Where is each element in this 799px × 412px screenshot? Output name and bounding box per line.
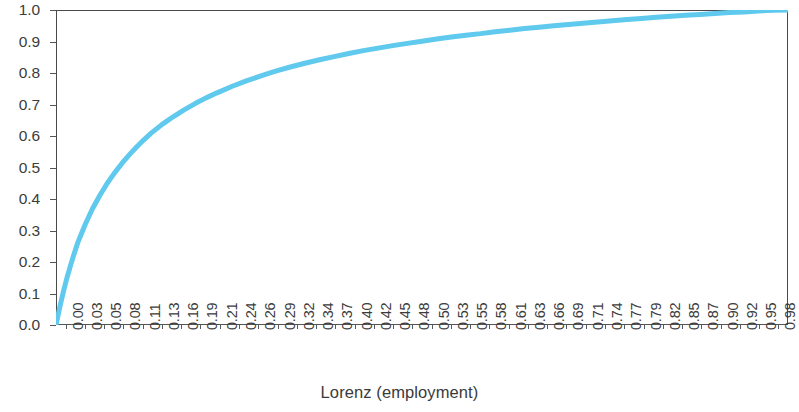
x-axis-tick-label: 0.40 [360, 303, 375, 330]
x-axis-tick-mark [586, 325, 587, 329]
x-axis-tick-mark [200, 325, 201, 329]
x-axis-tick-label: 0.92 [745, 303, 760, 330]
x-axis-tick-mark [701, 325, 702, 329]
x-axis-tick-label: 0.34 [321, 303, 336, 330]
x-axis-tick-label: 0.32 [302, 303, 317, 330]
x-axis-tick-mark [778, 325, 779, 329]
x-axis-tick-mark [143, 325, 144, 329]
x-axis-tick-label: 0.26 [263, 303, 278, 330]
x-axis-tick-label: 0.58 [494, 303, 509, 330]
x-axis-tick-label: 0.79 [649, 303, 664, 330]
x-axis-tick-label: 0.13 [167, 303, 182, 330]
x-axis-tick-label: 0.63 [533, 303, 548, 330]
x-axis-tick-label: 0.00 [71, 303, 86, 330]
x-axis-tick-label: 0.42 [379, 303, 394, 330]
x-axis-tick-label: 0.87 [706, 303, 721, 330]
x-axis-tick-mark [239, 325, 240, 329]
x-axis-tick-mark [297, 325, 298, 329]
x-axis-title: Lorenz (employment) [0, 383, 799, 402]
x-axis-tick-mark [644, 325, 645, 329]
x-axis-tick-mark [162, 325, 163, 329]
x-axis-tick-label: 0.05 [109, 303, 124, 330]
x-axis-tick-label: 0.11 [148, 304, 163, 330]
x-axis-tick-label: 0.29 [283, 303, 298, 330]
x-axis-tick-label: 0.53 [456, 303, 471, 330]
x-axis-tick-mark [278, 325, 279, 329]
x-axis-tick-mark [470, 325, 471, 329]
x-axis-tick-label: 0.16 [186, 303, 201, 330]
x-axis-tick-mark [258, 325, 259, 329]
x-axis-tick-label: 0.98 [783, 303, 798, 330]
x-axis-tick-label: 0.95 [764, 303, 779, 330]
x-axis-tick-mark [759, 325, 760, 329]
x-axis-tick-mark [85, 325, 86, 329]
x-axis-tick-mark [605, 325, 606, 329]
x-axis-tick-mark [432, 325, 433, 329]
x-axis-tick-label: 0.48 [417, 303, 432, 330]
x-axis-tick-mark [412, 325, 413, 329]
x-axis-tick-label: 0.08 [128, 303, 143, 330]
x-axis-tick-mark [316, 325, 317, 329]
x-axis-tick-mark [740, 325, 741, 329]
x-axis-tick-label: 0.61 [514, 303, 529, 330]
x-axis-tick-mark [123, 325, 124, 329]
x-axis-tick-label: 0.55 [475, 303, 490, 330]
x-axis-tick-mark [66, 325, 67, 329]
x-axis-tick-mark [682, 325, 683, 329]
x-axis-tick-mark [181, 325, 182, 329]
x-axis-tick-mark [528, 325, 529, 329]
x-axis-tick-mark [509, 325, 510, 329]
x-axis-tick-mark [393, 325, 394, 329]
x-axis-tick-mark [335, 325, 336, 329]
x-axis-tick-mark [663, 325, 664, 329]
x-axis-tick-label: 0.24 [244, 303, 259, 330]
x-axis-tick-label: 0.85 [687, 303, 702, 330]
x-axis-tick-mark [355, 325, 356, 329]
x-axis-tick-label: 0.90 [726, 303, 741, 330]
x-axis-tick-mark [566, 325, 567, 329]
x-axis-tick-label: 0.69 [571, 303, 586, 330]
x-axis-tick-mark [489, 325, 490, 329]
x-axis-tick-label: 0.21 [225, 303, 240, 330]
x-axis-tick-mark [104, 325, 105, 329]
x-axis-tick-labels: 0.000.030.050.080.110.130.160.190.210.24… [0, 0, 799, 412]
x-axis-tick-label: 0.71 [591, 303, 606, 330]
x-axis-tick-label: 0.50 [437, 303, 452, 330]
x-axis-tick-label: 0.82 [668, 303, 683, 330]
x-axis-tick-label: 0.77 [629, 303, 644, 330]
x-axis-tick-mark [374, 325, 375, 329]
x-axis-tick-label: 0.66 [552, 303, 567, 330]
x-axis-tick-label: 0.03 [90, 303, 105, 330]
lorenz-curve-chart: 0.00.10.20.30.40.50.60.70.80.91.0 0.000.… [0, 0, 799, 412]
x-axis-tick-mark [547, 325, 548, 329]
x-axis-tick-mark [721, 325, 722, 329]
x-axis-tick-label: 0.19 [205, 303, 220, 330]
x-axis-tick-mark [451, 325, 452, 329]
x-axis-tick-label: 0.74 [610, 303, 625, 330]
x-axis-tick-label: 0.37 [340, 303, 355, 330]
x-axis-tick-label: 0.45 [398, 303, 413, 330]
x-axis-tick-mark [624, 325, 625, 329]
x-axis-tick-mark [220, 325, 221, 329]
